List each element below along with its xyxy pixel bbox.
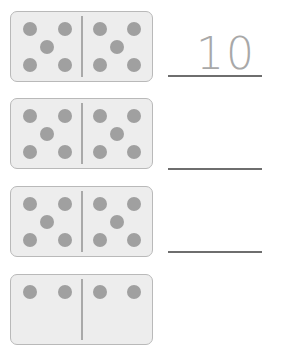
pip (58, 109, 72, 123)
pip (40, 215, 54, 229)
pip (93, 145, 107, 159)
pip (23, 58, 37, 72)
pip (127, 145, 141, 159)
pip (110, 40, 124, 54)
answer-line-2[interactable] (168, 168, 262, 170)
pip (127, 233, 141, 247)
pip (23, 22, 37, 36)
domino-divider (81, 279, 83, 340)
pip (58, 285, 72, 299)
domino-divider (81, 191, 83, 252)
pip (93, 58, 107, 72)
pip (23, 109, 37, 123)
pip (93, 22, 107, 36)
domino-3 (10, 186, 153, 257)
pip (23, 197, 37, 211)
domino-4 (10, 274, 153, 345)
domino-2 (10, 98, 153, 169)
domino-divider (81, 16, 83, 77)
pip (40, 127, 54, 141)
answer-line-3[interactable] (168, 251, 262, 253)
pip (58, 22, 72, 36)
pip (127, 109, 141, 123)
pip (58, 233, 72, 247)
pip (93, 285, 107, 299)
pip (93, 109, 107, 123)
pip (58, 197, 72, 211)
pip (23, 233, 37, 247)
pip (110, 215, 124, 229)
pip (110, 127, 124, 141)
pip (127, 58, 141, 72)
pip (40, 40, 54, 54)
pip (23, 285, 37, 299)
pip (127, 22, 141, 36)
pip (23, 145, 37, 159)
answer-line-1[interactable] (168, 75, 262, 77)
pip (93, 233, 107, 247)
pip (58, 145, 72, 159)
domino-1 (10, 11, 153, 82)
pip (127, 197, 141, 211)
pip (127, 285, 141, 299)
pip (58, 58, 72, 72)
answer-1: 10 (196, 32, 246, 76)
pip (93, 197, 107, 211)
domino-divider (81, 103, 83, 164)
